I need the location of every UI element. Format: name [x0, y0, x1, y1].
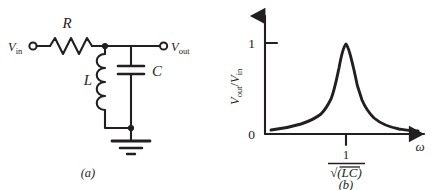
output-voltage-label: Vout [171, 40, 190, 56]
y-axis-denominator-subscript: in [234, 68, 244, 75]
x-tick-label-resonance: 1 √(LC) [328, 147, 365, 180]
y-axis-title: Vout/Vin [228, 68, 244, 105]
inductor-label: L [83, 72, 92, 88]
panel-a-caption: (a) [81, 166, 96, 180]
capacitor-label: C [152, 63, 163, 79]
input-voltage-label: Vin [8, 40, 23, 56]
figure-container: R L C Vin Vout (a) [0, 0, 439, 190]
panel-b-caption: (b) [339, 178, 354, 190]
resistor-label: R [61, 15, 71, 31]
inductor-symbol [97, 54, 105, 110]
resistor-symbol [50, 38, 92, 54]
y-axis-numerator-subscript: out [234, 86, 244, 98]
y-tick-label-1: 1 [248, 36, 255, 51]
input-terminal-circle [29, 42, 36, 49]
fraction-numerator: 1 [343, 147, 350, 162]
output-voltage-subscript: out [179, 46, 191, 56]
circuit-schematic: R L C Vin Vout (a) [0, 0, 215, 190]
input-voltage-subscript: in [16, 46, 23, 56]
panel-b-plot: 1 0 Vout/Vin ω 1 √(LC) (b) [215, 0, 439, 190]
resonance-chart: 1 0 Vout/Vin ω 1 √(LC) (b) [215, 0, 439, 190]
x-axis-title-omega: ω [415, 139, 424, 154]
panel-a-circuit: R L C Vin Vout (a) [0, 0, 215, 190]
wire-inductor-to-bottom-node [105, 110, 131, 128]
response-curve [271, 44, 418, 131]
origin-label: 0 [248, 127, 255, 142]
output-terminal-circle [160, 42, 167, 49]
